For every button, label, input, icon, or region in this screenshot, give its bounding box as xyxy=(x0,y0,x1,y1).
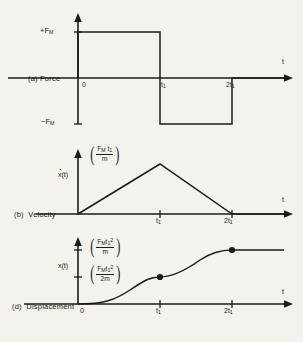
panel-b-y-axis-label: x(t) xyxy=(58,171,68,178)
panel-b-axis-label-t: t xyxy=(282,196,284,203)
panel-a-tick-label-t1: t1 xyxy=(161,81,166,89)
panel-a-axis-label-t: t xyxy=(282,58,284,65)
panel-d-y-axis-label: x(t) xyxy=(58,262,68,269)
panel-a-amplitude-label-negative: −FM xyxy=(41,118,54,126)
panel-b-y-axis-arrowhead xyxy=(74,149,82,158)
panel-b-tick-label-t1: t1 xyxy=(156,217,161,225)
panel-b-velocity-plot xyxy=(0,145,303,235)
panel-d-tick-label-2t1: 2t1 xyxy=(224,307,233,315)
panel-d-upper-numerator: FMt12 xyxy=(96,237,114,247)
panel-d-upper-denominator: m xyxy=(96,247,114,256)
panel-a-caption: (a) Force xyxy=(28,75,60,83)
panel-b-tick-label-2t1: 2t1 xyxy=(224,217,233,225)
panel-d-x-axis-arrowhead xyxy=(284,300,293,308)
panel-b-peak-value-label: ( FM t1 m ) xyxy=(89,145,120,162)
panel-b-peak-denominator: m xyxy=(96,154,113,163)
panel-a-force-plot xyxy=(0,0,303,130)
panel-d-lower-denominator: 2m xyxy=(96,274,114,283)
panel-d-tick-label-t1: t1 xyxy=(156,307,161,315)
panel-d-caption: (d) Displacement xyxy=(12,303,74,311)
panel-a-y-axis-arrowhead xyxy=(74,13,82,22)
panel-d-displacement-plot xyxy=(0,232,303,332)
figure-canvas: t +FM −FM 0 t1 2t1 (a) Force t x(t) ( FM… xyxy=(0,0,303,342)
panel-d-upper-value-label: ( FMt12 m ) xyxy=(89,237,121,255)
panel-d-tick-label-origin: 0 xyxy=(80,307,84,314)
panel-d-axis-label-t: t xyxy=(282,288,284,295)
panel-b-x-axis-arrowhead xyxy=(284,210,293,218)
panel-d-y-axis-arrowhead xyxy=(74,237,82,246)
panel-d-lower-numerator: FMt12 xyxy=(96,264,114,274)
panel-d-data-point-2t1 xyxy=(229,247,235,253)
panel-a-amplitude-label-positive: +FM xyxy=(40,27,53,35)
panel-a-tick-label-origin: 0 xyxy=(82,81,86,88)
panel-b-caption: (b) Velocity xyxy=(14,211,56,219)
panel-a-x-axis-arrowhead xyxy=(284,74,293,82)
panel-b-velocity-waveform xyxy=(78,164,284,214)
panel-b-peak-numerator: FM t1 xyxy=(96,145,113,154)
panel-a-tick-label-2t1: 2t1 xyxy=(226,81,235,89)
panel-d-lower-value-label: ( FMt12 2m ) xyxy=(89,264,121,282)
panel-d-data-point-t1 xyxy=(157,274,163,280)
